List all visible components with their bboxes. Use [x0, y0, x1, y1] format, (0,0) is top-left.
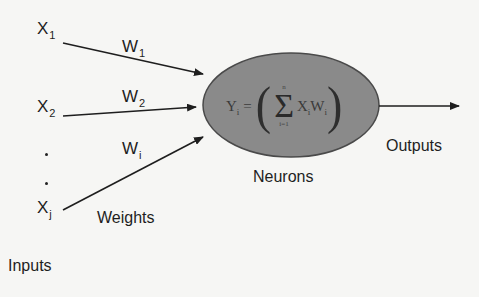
inputs-label: Inputs	[8, 258, 52, 274]
ellipsis-dot-1	[45, 153, 48, 156]
formula-close-paren: )	[327, 80, 342, 133]
input-x1-label: X1	[37, 20, 55, 37]
neurons-label: Neurons	[253, 169, 313, 185]
input-x2-label: X2	[37, 98, 55, 115]
formula-lhs: Yi	[226, 98, 239, 115]
ellipsis-dot-2	[45, 182, 48, 185]
weights-label: Weights	[97, 210, 155, 226]
formula-open-paren: (	[256, 80, 271, 133]
formula-summation: n Σ i=1	[274, 84, 294, 129]
formula-equals: =	[243, 98, 251, 115]
formula-term: XiWi	[297, 98, 327, 115]
formula-lower-limit: i=1	[279, 121, 288, 128]
weight-w2-label: W2	[122, 88, 145, 105]
sigma-icon: Σ	[274, 91, 294, 122]
weight-wi-label: Wi	[122, 140, 142, 157]
input-xj-label: Xj	[37, 199, 52, 216]
weight-w1-label: W1	[122, 38, 145, 55]
outputs-label: Outputs	[386, 138, 442, 154]
input-2-arrow	[63, 107, 196, 116]
neuron-formula: Yi = ( n Σ i=1 XiWi )	[226, 76, 358, 136]
